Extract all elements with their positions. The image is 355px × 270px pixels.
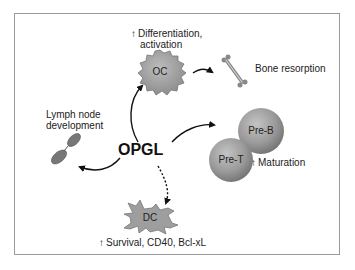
oc-effect-label: ↑Differentiation, activation — [131, 28, 202, 50]
dc-effect-label: ↑Survival, CD40, Bcl-xL — [99, 237, 206, 248]
oc-label: OC — [148, 66, 172, 77]
maturation-label: ↑Maturation — [251, 157, 305, 168]
arrow-opgl-to-dc — [158, 166, 168, 203]
up-arrow-icon: ↑ — [99, 237, 104, 248]
arrow-opgl-to-pre-cells — [172, 125, 214, 142]
arrow-opgl-to-oc — [131, 86, 142, 142]
up-arrow-icon: ↑ — [251, 157, 256, 168]
arrow-opgl-to-lymph — [80, 158, 120, 170]
pre-b-label: Pre-B — [246, 125, 276, 136]
pre-t-label: Pre-T — [216, 154, 246, 165]
up-arrow-icon: ↑ — [131, 28, 136, 39]
dc-label: DC — [140, 212, 160, 223]
bone-icon — [222, 55, 248, 88]
bone-resorption-label: Bone resorption — [255, 63, 326, 74]
lymph-node-label: Lymph node development — [46, 109, 103, 131]
arrow-oc-to-bone — [193, 69, 212, 73]
opgl-label: OPGL — [118, 141, 163, 159]
lymph-node-icon — [49, 131, 83, 166]
